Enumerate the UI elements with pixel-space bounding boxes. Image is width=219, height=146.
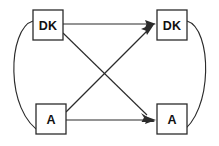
node-a-bottom-right[interactable]: A [157,104,187,134]
edge-dk-to-a-arrowhead [141,113,155,122]
node-dk-top-right-label: DK [163,19,181,33]
diagram-canvas: DK DK A A [0,0,219,146]
node-dk-top-left[interactable]: DK [33,10,63,40]
cross-lagged-panel-diagram: DK DK A A [0,0,219,146]
edge-a-to-dk-line [66,31,147,112]
node-a-bottom-left[interactable]: A [36,104,66,134]
node-a-bottom-right-label: A [167,113,176,127]
node-a-bottom-left-label: A [46,113,55,127]
node-dk-top-right[interactable]: DK [157,10,187,40]
node-dk-top-left-label: DK [39,19,57,33]
